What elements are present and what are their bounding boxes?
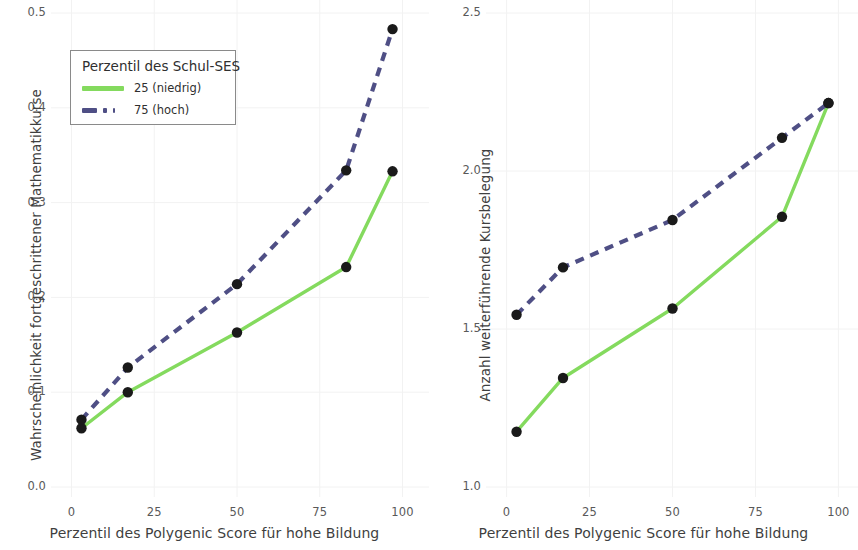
y-axis-title-left: Wahrscheinlichkeit fortgeschrittener Mat… <box>28 0 44 550</box>
figure: 0.00.10.20.30.40.5 0255075100 Perzentil … <box>0 0 858 550</box>
legend-key-dashed-icon <box>82 108 124 114</box>
x-axis-title-right: Perzentil des Polygenic Score für hohe B… <box>429 525 858 541</box>
x-tick-label: 75 <box>290 505 350 519</box>
data-point <box>667 215 677 225</box>
legend-label-low-ses: 25 (niedrig) <box>134 81 201 95</box>
data-point <box>123 387 133 397</box>
data-point <box>511 310 521 320</box>
data-point <box>232 279 242 289</box>
legend-title: Perzentil des Schul-SES <box>82 58 240 74</box>
legend-label-high-ses: 75 (hoch) <box>134 103 189 117</box>
x-tick-label: 25 <box>124 505 184 519</box>
data-point <box>558 262 568 272</box>
data-point <box>387 166 397 176</box>
data-point <box>387 24 397 34</box>
data-point <box>667 303 677 313</box>
plot-area-right <box>429 0 858 550</box>
data-point <box>777 133 787 143</box>
y-tick-label: 1.5 <box>441 321 481 335</box>
data-point <box>511 427 521 437</box>
data-point <box>341 165 351 175</box>
plot-canvas-right <box>429 0 858 550</box>
data-point <box>76 414 86 424</box>
legend: Perzentil des Schul-SES 25 (niedrig) 75 … <box>70 50 236 125</box>
x-axis-title-left: Perzentil des Polygenic Score für hohe B… <box>0 525 429 541</box>
x-tick-label: 25 <box>560 505 620 519</box>
x-tick-label: 75 <box>725 505 785 519</box>
chart-panel-left: 0.00.10.20.30.40.5 0255075100 Perzentil … <box>0 0 429 550</box>
y-tick-label: 2.0 <box>441 163 481 177</box>
x-tick-label: 100 <box>372 505 432 519</box>
data-point <box>823 98 833 108</box>
y-axis-title-right: Anzahl weiterführende Kursbelegung <box>477 0 493 550</box>
chart-panel-right: 1.01.52.02.5 0255075100 Perzentil des Po… <box>429 0 858 550</box>
x-tick-label: 50 <box>643 505 703 519</box>
x-tick-label: 100 <box>808 505 858 519</box>
x-tick-label: 50 <box>207 505 267 519</box>
y-tick-label: 1.0 <box>441 479 481 493</box>
data-point <box>341 262 351 272</box>
legend-key-solid-icon <box>82 86 124 92</box>
data-point <box>232 327 242 337</box>
data-point <box>123 362 133 372</box>
x-tick-label: 0 <box>42 505 102 519</box>
y-tick-label: 2.5 <box>441 5 481 19</box>
data-point <box>777 212 787 222</box>
data-point <box>558 373 568 383</box>
